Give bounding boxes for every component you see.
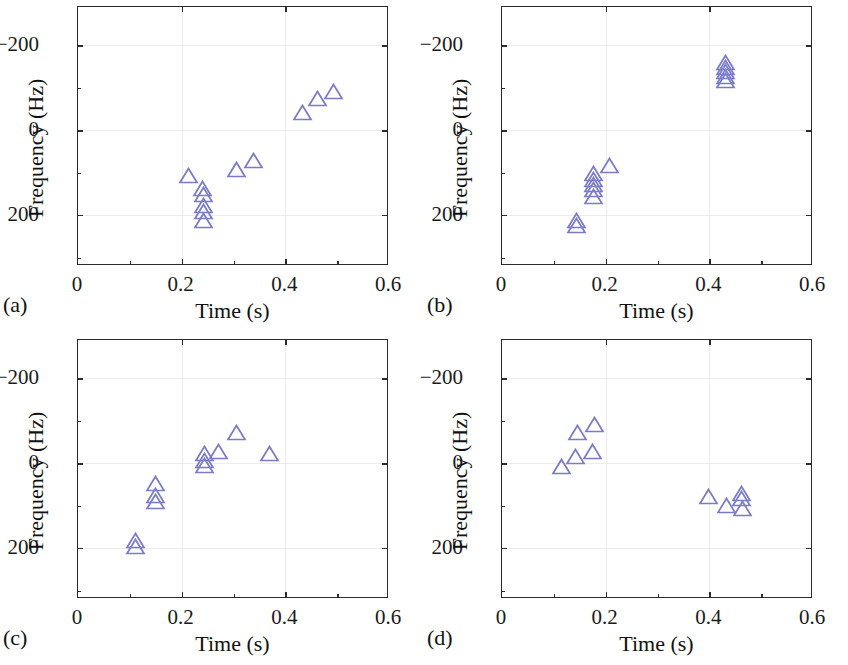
x-tick-mark-top — [709, 340, 710, 345]
y-tick-mark-minor — [78, 173, 81, 174]
y-tick-mark-minor — [502, 506, 505, 507]
x-tick-mark — [606, 592, 607, 597]
x-axis-tick-label: 0 — [72, 605, 83, 630]
y-tick-mark-minor — [78, 88, 81, 89]
y-tick-mark-right — [806, 378, 811, 379]
x-tick-mark-top — [182, 7, 183, 12]
gridline-horizontal — [78, 378, 387, 379]
gridline-horizontal — [502, 463, 811, 464]
y-axis-title: Frequency (Hz) — [23, 361, 49, 601]
y-axis-title: Frequency (Hz) — [447, 361, 473, 601]
gridline-vertical — [285, 7, 286, 264]
y-tick-mark-minor — [502, 173, 505, 174]
y-tick-mark-right — [382, 378, 387, 379]
panel-label-a: (a) — [3, 292, 27, 318]
x-tick-mark-top — [606, 7, 607, 12]
x-axis-tick-label: 0 — [72, 272, 83, 297]
gridline-horizontal — [502, 130, 811, 131]
x-axis-title: Time (s) — [501, 631, 812, 657]
y-tick-mark-right — [806, 215, 811, 216]
x-tick-mark-minor — [337, 261, 338, 264]
y-tick-mark — [502, 130, 507, 131]
panel-b: 2000−20000.20.40.6Frequency (Hz)Time (s)… — [424, 0, 848, 332]
x-axis-tick-label: 0.4 — [271, 605, 297, 630]
x-tick-mark-top — [709, 7, 710, 12]
y-tick-mark-right — [806, 548, 811, 549]
y-tick-mark-minor — [502, 591, 505, 592]
y-tick-mark — [502, 215, 507, 216]
y-tick-mark — [78, 463, 83, 464]
x-tick-mark-top — [606, 340, 607, 345]
x-axis-tick-label: 0.4 — [271, 272, 297, 297]
y-tick-mark — [78, 378, 83, 379]
y-tick-mark-minor — [502, 88, 505, 89]
x-tick-mark-minor — [554, 594, 555, 597]
x-tick-mark-top — [285, 7, 286, 12]
x-tick-mark-minor — [761, 594, 762, 597]
panel-c: 2000−20000.20.40.6Frequency (Hz)Time (s)… — [0, 333, 424, 665]
y-tick-mark — [78, 45, 83, 46]
x-tick-mark — [285, 592, 286, 597]
y-axis-title: Frequency (Hz) — [447, 28, 473, 268]
x-axis-tick-label: 0 — [496, 605, 507, 630]
gridline-horizontal — [502, 45, 811, 46]
panel-label-c: (c) — [3, 625, 27, 651]
gridline-vertical — [182, 7, 183, 264]
x-axis-tick-label: 0.4 — [695, 272, 721, 297]
y-tick-mark — [502, 45, 507, 46]
x-tick-mark-minor — [761, 261, 762, 264]
x-tick-mark-top — [285, 340, 286, 345]
gridline-horizontal — [78, 463, 387, 464]
x-tick-mark-minor — [658, 261, 659, 264]
y-tick-mark — [78, 215, 83, 216]
y-tick-mark — [502, 548, 507, 549]
x-tick-mark-minor — [337, 594, 338, 597]
y-tick-mark-minor — [78, 421, 81, 422]
y-tick-mark-right — [806, 463, 811, 464]
gridline-vertical — [182, 340, 183, 597]
panel-a: 2000−20000.20.40.6Frequency (Hz)Time (s)… — [0, 0, 424, 332]
x-axis-tick-label: 0.2 — [168, 605, 194, 630]
x-axis-title: Time (s) — [77, 631, 388, 657]
x-tick-mark-top — [182, 340, 183, 345]
figure-scatter-grid: 2000−20000.20.40.6Frequency (Hz)Time (s)… — [0, 0, 848, 665]
gridline-vertical — [709, 340, 710, 597]
y-tick-mark-minor — [78, 591, 81, 592]
x-axis-tick-label: 0.6 — [799, 605, 825, 630]
panel-d: 2000−20000.20.40.6Frequency (Hz)Time (s)… — [424, 333, 848, 665]
y-tick-mark-minor — [78, 506, 81, 507]
x-axis-tick-label: 0.4 — [695, 605, 721, 630]
gridline-horizontal — [78, 548, 387, 549]
x-tick-mark-minor — [234, 261, 235, 264]
gridline-horizontal — [502, 548, 811, 549]
y-tick-mark-right — [382, 130, 387, 131]
x-axis-title: Time (s) — [77, 298, 388, 324]
y-tick-mark-right — [382, 548, 387, 549]
x-tick-mark-minor — [234, 594, 235, 597]
x-axis-tick-label: 0.6 — [375, 272, 401, 297]
y-tick-mark — [502, 378, 507, 379]
panel-label-d: (d) — [427, 625, 453, 651]
y-tick-mark-right — [382, 463, 387, 464]
gridline-vertical — [709, 7, 710, 264]
y-tick-mark-right — [806, 130, 811, 131]
x-tick-mark-minor — [130, 594, 131, 597]
x-axis-title: Time (s) — [501, 298, 812, 324]
gridline-vertical — [285, 340, 286, 597]
y-tick-mark — [78, 548, 83, 549]
y-tick-mark-minor — [78, 258, 81, 259]
x-tick-mark — [709, 592, 710, 597]
gridline-horizontal — [502, 378, 811, 379]
plot-area-b — [501, 6, 812, 265]
x-axis-tick-label: 0.2 — [592, 272, 618, 297]
x-tick-mark — [606, 259, 607, 264]
x-axis-tick-label: 0.2 — [592, 605, 618, 630]
y-tick-mark — [502, 463, 507, 464]
x-tick-mark-minor — [554, 261, 555, 264]
y-tick-mark-right — [382, 45, 387, 46]
x-axis-tick-label: 0.6 — [375, 605, 401, 630]
plot-area-a — [77, 6, 388, 265]
y-tick-mark-right — [382, 215, 387, 216]
x-axis-tick-label: 0.6 — [799, 272, 825, 297]
gridline-vertical — [606, 340, 607, 597]
